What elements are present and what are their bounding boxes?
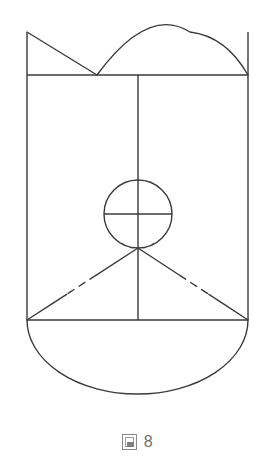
figure-number-label: 8 [144,434,153,450]
figure-caption: 8 [0,425,275,459]
lower-left-chord-dashes [67,275,96,294]
lower-right-chord-dashes [180,275,209,294]
geometric-diagram [0,0,275,470]
bottom-semicircular-arc [27,320,248,394]
figure-container: 8 Geometric construction: a vertical rou… [0,0,275,470]
tofu-box-glyph-icon [122,434,137,450]
upper-left-diagonal-line [27,32,97,75]
upper-curved-arc [97,25,248,75]
